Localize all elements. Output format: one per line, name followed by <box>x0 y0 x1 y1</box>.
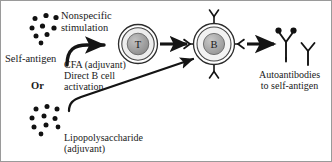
t-cell-label: T <box>135 39 142 50</box>
label-self-antigen: Self-antigen <box>5 53 56 65</box>
label-nonspecific-stimulation: Nonspecific stimulation <box>61 10 112 34</box>
label-cfa-direct-b-cell-activation: CFA (adjuvant) Direct B cell activation <box>64 59 126 93</box>
label-or: Or <box>31 80 44 92</box>
b-cell-label: B <box>210 39 217 50</box>
label-lipopolysaccharide: Lipopolysaccharide (adjuvant) <box>64 132 143 154</box>
autoantibody-1-bound-antigen <box>275 27 296 33</box>
figure-canvas: T <box>0 0 332 162</box>
autoantibody-1 <box>280 33 293 59</box>
self-antigen-dots-bottom <box>30 104 61 136</box>
self-antigen-dots-top <box>30 13 59 46</box>
label-autoantibodies: Autoantibodies to self-antigen <box>259 69 320 91</box>
autoantibody-2 <box>302 43 315 65</box>
